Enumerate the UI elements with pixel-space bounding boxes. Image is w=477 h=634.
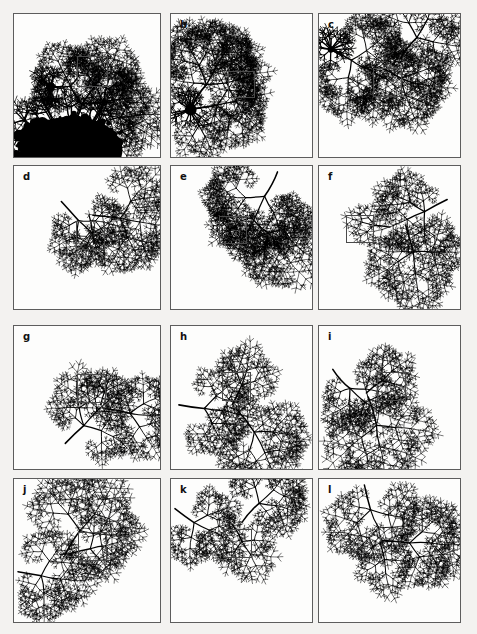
panel-label-j: j <box>23 484 26 495</box>
panel-label-i: i <box>328 331 331 342</box>
panel-e: e <box>170 165 313 310</box>
panel-label-k: k <box>180 484 187 495</box>
fractal-filaments-i <box>320 343 444 469</box>
panel-label-e: e <box>180 171 187 182</box>
zoom-region-box-g <box>77 374 106 403</box>
panel-g: g <box>13 325 161 470</box>
panel-c: c <box>318 13 461 158</box>
panel-h: h <box>170 325 313 470</box>
zoom-region-box-a <box>77 56 108 87</box>
zoom-region-box-k <box>223 529 252 558</box>
panel-b: b <box>170 13 313 158</box>
fractal-filaments-h <box>179 336 312 469</box>
panel-label-h: h <box>180 331 187 342</box>
fractal-filaments-e <box>198 166 312 293</box>
zoom-region-box-c <box>373 68 402 97</box>
panel-i: i <box>318 325 461 470</box>
panel-f: f <box>318 165 461 310</box>
panel-a <box>13 13 161 158</box>
panel-label-c: c <box>328 19 334 30</box>
fractal-image-f <box>319 166 460 309</box>
zoom-region-box-d <box>76 221 105 250</box>
panel-label-d: d <box>23 171 30 182</box>
zoom-region-box-h <box>222 372 251 401</box>
panel-label-g: g <box>23 331 30 342</box>
fractal-filaments-l <box>320 481 460 603</box>
fractal-filaments-b <box>171 16 278 157</box>
zoom-region-box-e <box>219 216 247 244</box>
fractal-image-l <box>319 479 460 622</box>
panel-label-f: f <box>328 171 332 182</box>
panel-j: j <box>13 478 161 623</box>
panel-d: d <box>13 165 161 310</box>
panel-label-b: b <box>180 19 187 30</box>
mandelbrot-zoom-figure: bcdefghijkl <box>0 0 477 634</box>
zoom-region-box-f <box>346 215 374 243</box>
panel-label-l: l <box>328 484 331 495</box>
panel-l: l <box>318 478 461 623</box>
zoom-region-box-j <box>78 532 107 561</box>
panel-k: k <box>170 478 313 623</box>
zoom-region-box-b <box>228 71 255 98</box>
zoom-region-box-i <box>377 372 406 401</box>
